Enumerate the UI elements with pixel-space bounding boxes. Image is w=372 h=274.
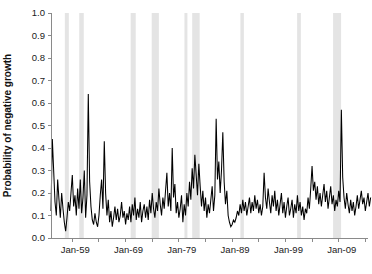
x-axis-tick-label: Jan-89 [221,244,250,255]
y-axis-tick-label: 0.3 [32,165,45,176]
y-axis-tick-label: 0.5 [32,120,45,131]
y-axis-tick-label: 0.2 [32,187,45,198]
chart-figure: 0.00.10.20.30.40.50.60.70.80.91.0 Jan-59… [0,0,372,274]
y-axis-tick-label: 0.9 [32,30,45,41]
y-axis-tick-label: 0.7 [32,75,45,86]
x-axis-tick-label: Jan-79 [167,244,196,255]
y-axis-tick-label: 0.1 [32,210,45,221]
y-axis-tick-label: 0.6 [32,97,45,108]
y-axis-title: Probability of negative growth [2,54,13,197]
y-axis-tick-label: 1.0 [32,7,45,18]
y-axis-tick-label: 0.4 [32,142,45,153]
y-axis-tick-label: 0.8 [32,52,45,63]
x-axis-tick-label: Jan-59 [61,244,90,255]
x-axis-tick-label: Jan-69 [114,244,143,255]
y-axis-tick-label: 0.0 [32,232,45,243]
recession-band [192,13,199,238]
probability-of-negative-growth-line-chart: 0.00.10.20.30.40.50.60.70.80.91.0 Jan-59… [0,0,372,274]
x-axis-tick-label: Jan-09 [327,244,356,255]
x-axis-tick-label: Jan-99 [274,244,303,255]
